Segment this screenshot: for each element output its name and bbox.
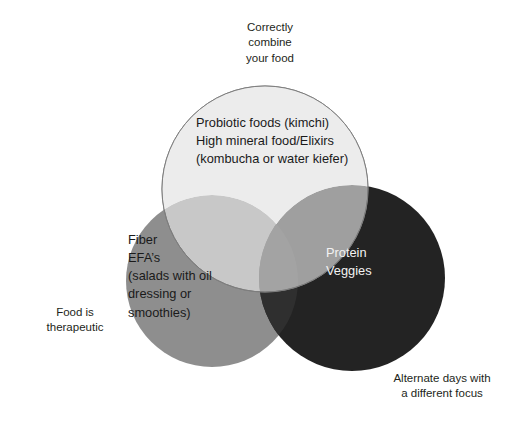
label-alternate-days: Alternate days with a different focus <box>378 371 506 402</box>
venn-text-correctly-combine: Probiotic foods (kimchi) High mineral fo… <box>196 114 348 168</box>
venn-text-food-is-therapeutic: Fiber EFA’s (salads with oil dressing or… <box>128 231 212 322</box>
venn-diagram: Probiotic foods (kimchi) High mineral fo… <box>0 0 508 429</box>
label-food-is-therapeutic: Food is therapeutic <box>14 305 136 336</box>
label-correctly-combine-your-food: Correctly combine your food <box>205 20 335 66</box>
venn-text-alternate-days: Protein Veggies <box>326 244 372 280</box>
